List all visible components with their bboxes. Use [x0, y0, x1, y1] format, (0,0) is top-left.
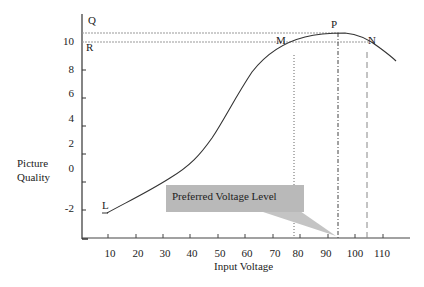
- point-label-m: M: [276, 34, 286, 46]
- x-tick-label: 10: [95, 247, 125, 259]
- y-tick-label: -2: [44, 202, 74, 214]
- x-tick-label: 40: [177, 247, 207, 259]
- y-tick-label: 4: [44, 112, 74, 124]
- x-tick-label: 20: [123, 247, 153, 259]
- callout-text: Preferred Voltage Level: [172, 190, 277, 202]
- y-tick-label: 6: [44, 87, 74, 99]
- y-axis-label-line1: Picture: [17, 157, 48, 169]
- y-tick-label: 2: [44, 137, 74, 149]
- point-label-q: Q: [88, 14, 96, 26]
- point-label-n: N: [368, 34, 376, 46]
- x-tick-label: 90: [311, 247, 341, 259]
- point-label-r: R: [86, 41, 93, 53]
- x-tick-label: 60: [232, 247, 262, 259]
- x-tick-label: 80: [283, 247, 313, 259]
- x-tick-label: 30: [150, 247, 180, 259]
- callout-pointer: [260, 211, 336, 236]
- point-label-l: L: [102, 199, 109, 211]
- x-tick-label: 110: [367, 247, 397, 259]
- x-axis-label: Input Voltage: [214, 260, 273, 272]
- x-tick-label: 100: [340, 247, 370, 259]
- point-label-p: P: [331, 18, 337, 30]
- y-tick-label: 10: [44, 35, 74, 47]
- x-tick-label: 50: [205, 247, 235, 259]
- y-axis-label-line2: Quality: [17, 171, 50, 183]
- y-tick-label: 8: [44, 63, 74, 75]
